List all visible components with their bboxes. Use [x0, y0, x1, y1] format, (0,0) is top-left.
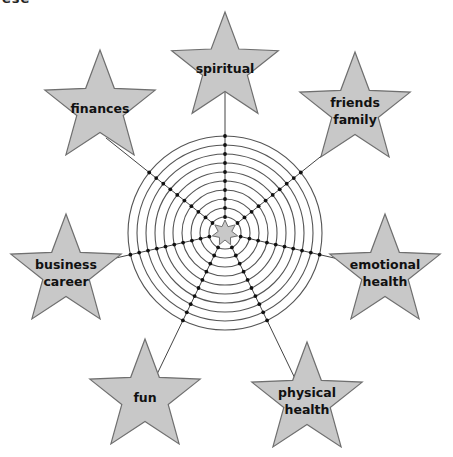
category-label-friends-family-line-1: friends: [330, 95, 380, 110]
score-dot[interactable]: [146, 249, 150, 253]
category-star-finances: finances: [45, 50, 155, 155]
score-dot[interactable]: [318, 253, 322, 257]
category-label-finances: finances: [71, 101, 130, 116]
score-dot[interactable]: [161, 182, 165, 186]
category-label-friends-family-line-2: family: [333, 112, 377, 127]
score-dot[interactable]: [211, 221, 215, 225]
score-dot[interactable]: [172, 243, 176, 247]
score-dot[interactable]: [201, 278, 205, 282]
score-dot[interactable]: [264, 199, 268, 203]
score-dot[interactable]: [299, 171, 303, 175]
category-label-fun: fun: [133, 390, 156, 405]
score-dot[interactable]: [236, 221, 240, 225]
score-dot[interactable]: [190, 204, 194, 208]
cropped-heading-text: ese: [2, 0, 30, 6]
category-label-business-career-line-2: career: [43, 274, 89, 289]
score-dot[interactable]: [257, 302, 261, 306]
score-dot[interactable]: [300, 249, 304, 253]
score-dot[interactable]: [292, 176, 296, 180]
score-dot[interactable]: [212, 254, 216, 258]
score-dot[interactable]: [250, 286, 254, 290]
score-dot[interactable]: [250, 210, 254, 214]
score-dot[interactable]: [223, 215, 227, 219]
score-dot[interactable]: [129, 253, 133, 257]
score-dot[interactable]: [239, 235, 243, 239]
score-dot[interactable]: [197, 286, 201, 290]
score-dot[interactable]: [285, 182, 289, 186]
category-label-business-career-line-1: business: [35, 257, 97, 272]
score-dot[interactable]: [243, 216, 247, 220]
score-dot[interactable]: [154, 176, 158, 180]
score-dot[interactable]: [168, 187, 172, 191]
score-dot[interactable]: [181, 319, 185, 323]
score-dot[interactable]: [208, 262, 212, 266]
score-dot[interactable]: [197, 210, 201, 214]
score-dot[interactable]: [204, 216, 208, 220]
category-label-physical-health-line-2: health: [285, 402, 330, 417]
category-label-spiritual: spiritual: [196, 61, 255, 76]
category-star-friends-family: friendsfamily: [300, 52, 410, 157]
category-label-emotional-health-line-2: health: [363, 274, 408, 289]
score-dot[interactable]: [147, 171, 151, 175]
score-dot[interactable]: [274, 243, 278, 247]
score-dot[interactable]: [278, 187, 282, 191]
score-dot[interactable]: [261, 310, 265, 314]
score-dot[interactable]: [223, 161, 227, 165]
score-dot[interactable]: [291, 247, 295, 251]
score-dot[interactable]: [216, 246, 220, 250]
center-star-icon: [212, 220, 237, 245]
score-dot[interactable]: [223, 197, 227, 201]
score-dot[interactable]: [256, 239, 260, 243]
score-dot[interactable]: [283, 245, 287, 249]
score-dot[interactable]: [164, 245, 168, 249]
score-dot[interactable]: [246, 278, 250, 282]
score-dot[interactable]: [223, 206, 227, 210]
score-dot[interactable]: [254, 294, 258, 298]
center-star-shape: [212, 220, 237, 245]
category-label-emotional-health-line-1: emotional: [350, 257, 421, 272]
score-dot[interactable]: [265, 241, 269, 245]
score-dot[interactable]: [205, 270, 209, 274]
wheel-of-life-diagram: ese spiritualfriendsfamilyemotionalhealt…: [0, 0, 453, 457]
score-dot[interactable]: [248, 237, 252, 241]
score-dot[interactable]: [271, 193, 275, 197]
score-dot[interactable]: [230, 246, 234, 250]
score-dot[interactable]: [181, 241, 185, 245]
score-dot[interactable]: [185, 310, 189, 314]
category-star-fun: fun: [90, 339, 200, 444]
score-dot[interactable]: [137, 251, 141, 255]
category-star-emotional-health: emotionalhealth: [330, 214, 440, 319]
score-dot[interactable]: [223, 170, 227, 174]
score-dot[interactable]: [223, 152, 227, 156]
score-dot[interactable]: [193, 294, 197, 298]
category-star-physical-health: physicalhealth: [252, 342, 362, 447]
score-dot[interactable]: [242, 270, 246, 274]
score-dot[interactable]: [257, 204, 261, 208]
score-dot[interactable]: [190, 239, 194, 243]
score-dot[interactable]: [238, 262, 242, 266]
category-star-business-career: businesscareer: [11, 214, 121, 319]
score-dot[interactable]: [223, 143, 227, 147]
score-dot[interactable]: [199, 237, 203, 241]
wheel-svg: spiritualfriendsfamilyemotionalhealthphy…: [0, 0, 453, 457]
score-dot[interactable]: [223, 179, 227, 183]
score-dot[interactable]: [223, 188, 227, 192]
category-label-physical-health-line-1: physical: [278, 385, 336, 400]
score-dot[interactable]: [223, 134, 227, 138]
score-dot[interactable]: [155, 247, 159, 251]
score-dot[interactable]: [265, 319, 269, 323]
score-dot[interactable]: [309, 251, 313, 255]
score-dot[interactable]: [208, 235, 212, 239]
score-dot[interactable]: [189, 302, 193, 306]
score-dot[interactable]: [175, 193, 179, 197]
score-dot[interactable]: [234, 254, 238, 258]
score-dot[interactable]: [183, 199, 187, 203]
